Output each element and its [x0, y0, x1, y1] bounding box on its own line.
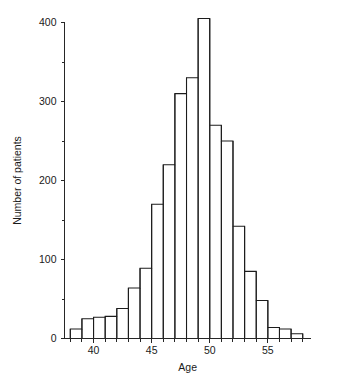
x-tick-label: 55	[262, 344, 274, 356]
x-tick-label: 45	[146, 344, 158, 356]
x-axis-title: Age	[178, 361, 197, 373]
figure-background	[0, 0, 352, 382]
y-tick-label: 200	[39, 174, 57, 186]
x-tick-label: 40	[88, 344, 100, 356]
x-tick-label: 50	[204, 344, 216, 356]
histogram-figure: 0100200300400 40455055 Age Number of pat…	[0, 0, 352, 382]
histogram-canvas: 0100200300400 40455055 Age Number of pat…	[0, 0, 352, 382]
y-tick-label: 0	[51, 332, 57, 344]
y-axis-title: Number of patients	[11, 136, 23, 225]
y-tick-label: 100	[39, 253, 57, 265]
y-tick-label: 300	[39, 95, 57, 107]
y-tick-label: 400	[39, 16, 57, 28]
